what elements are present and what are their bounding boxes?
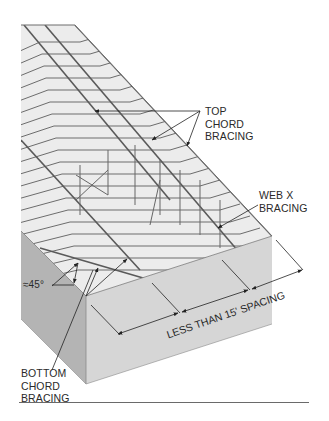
web-x-bracing-label: WEB X BRACING bbox=[259, 189, 308, 214]
top-chord-bracing-label: TOP CHORD BRACING bbox=[205, 105, 254, 143]
bottom-chord-bracing-label: BOTTOM CHORD BRACING bbox=[21, 367, 70, 405]
angle-label: ≈45° bbox=[23, 279, 44, 292]
caption-divider bbox=[19, 402, 309, 403]
